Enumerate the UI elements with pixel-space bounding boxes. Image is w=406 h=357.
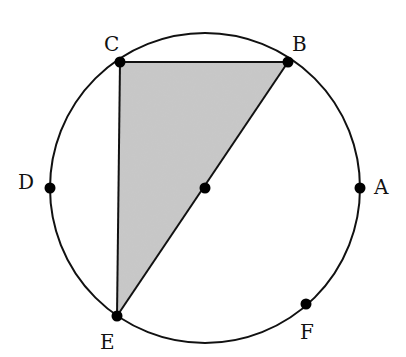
point-a-marker xyxy=(355,183,366,194)
point-label-f: F xyxy=(300,322,314,342)
center-point-marker xyxy=(200,183,211,194)
circle-diagram xyxy=(0,0,406,357)
point-label-e: E xyxy=(100,332,115,352)
point-label-a: A xyxy=(374,177,388,197)
point-c-marker xyxy=(115,57,126,68)
point-d-marker xyxy=(45,183,56,194)
point-b-marker xyxy=(283,57,294,68)
point-e-marker xyxy=(112,311,123,322)
point-label-d: D xyxy=(18,172,34,192)
point-label-b: B xyxy=(292,34,307,54)
point-f-marker xyxy=(301,299,312,310)
point-label-c: C xyxy=(104,34,119,54)
